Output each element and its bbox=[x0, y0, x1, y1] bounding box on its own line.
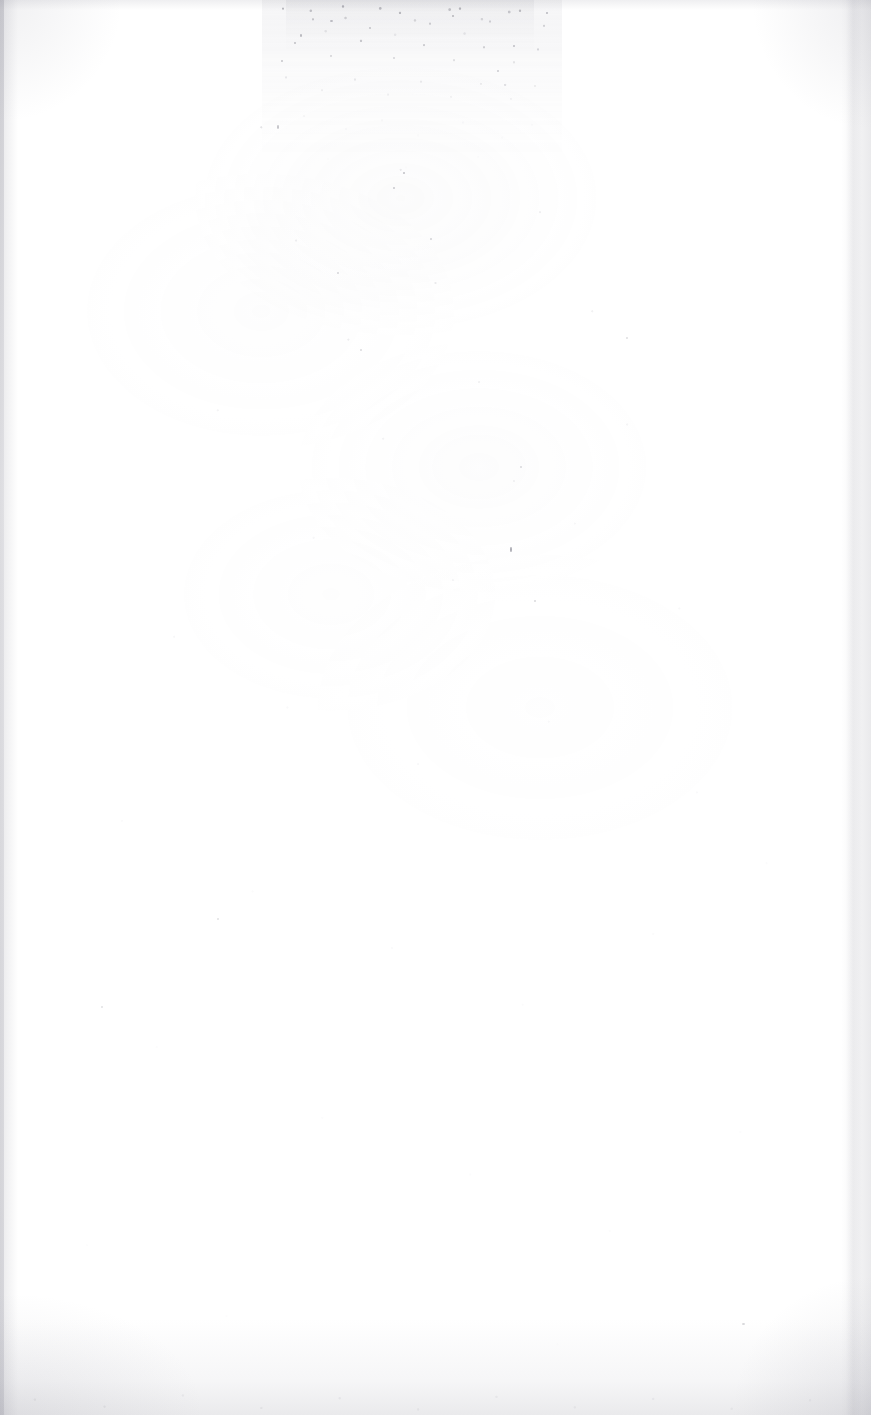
scanned-page bbox=[0, 0, 871, 1415]
paper-background bbox=[0, 0, 871, 1415]
